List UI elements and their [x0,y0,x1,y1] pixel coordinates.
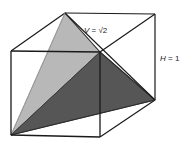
height-label-operator: = [166,54,175,63]
volume-label-operator: = [89,26,98,35]
height-label-value: 1 [175,54,180,63]
volume-label: V = √2 [84,26,108,35]
height-label: H = 1 [160,54,180,63]
figure-container: V = √2 H = 1 [0,0,187,152]
volume-label-value: √2 [98,26,107,35]
tetrahedron-in-cube-diagram: V = √2 H = 1 [0,0,187,152]
